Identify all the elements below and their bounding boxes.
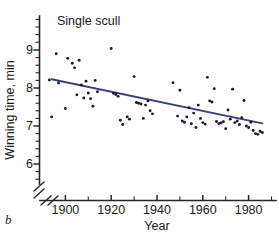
- data-point: [133, 75, 136, 78]
- data-point: [236, 120, 239, 123]
- data-point: [82, 96, 85, 99]
- data-point: [185, 115, 188, 118]
- data-point: [50, 115, 53, 118]
- data-point: [48, 79, 51, 82]
- y-axis-title: Winning time, min: [3, 60, 17, 159]
- y-axis-tick-labels: 9 8 7 6: [26, 43, 33, 171]
- data-point: [85, 80, 88, 83]
- data-point: [204, 123, 207, 126]
- data-point: [249, 121, 252, 124]
- data-point: [183, 121, 186, 124]
- data-point: [229, 118, 232, 121]
- x-tick-label-1980: 1980: [235, 203, 263, 217]
- data-point: [128, 118, 131, 121]
- x-tick-label-1920: 1920: [97, 203, 125, 217]
- data-point: [188, 106, 191, 109]
- scatter-points-group: [48, 47, 264, 136]
- data-point: [176, 115, 179, 118]
- data-point: [194, 126, 197, 129]
- data-point: [66, 57, 69, 60]
- axis-break-marks: [34, 182, 58, 205]
- data-point: [151, 112, 154, 115]
- data-point: [75, 93, 78, 96]
- data-point: [57, 82, 60, 85]
- data-point: [121, 123, 124, 126]
- x-axis-title: Year: [144, 219, 169, 233]
- data-point: [64, 107, 67, 110]
- data-point: [146, 99, 149, 102]
- data-point: [240, 116, 243, 119]
- data-point: [206, 76, 209, 79]
- data-point: [231, 88, 234, 91]
- data-point: [142, 117, 145, 120]
- data-point: [215, 120, 218, 123]
- data-point: [91, 105, 94, 108]
- y-tick-label-8: 8: [26, 81, 33, 95]
- data-point: [172, 81, 175, 84]
- data-point: [94, 79, 97, 82]
- data-point: [89, 97, 92, 100]
- data-point: [261, 131, 264, 134]
- data-point: [55, 52, 58, 55]
- data-point: [126, 115, 129, 118]
- regression-fit-line: [52, 79, 263, 123]
- data-point: [73, 66, 76, 69]
- data-point: [149, 109, 152, 112]
- scatter-plot-svg: Winning time, min 9 8 7 6: [0, 0, 279, 235]
- data-point: [87, 91, 90, 94]
- data-point: [117, 95, 120, 98]
- data-point: [211, 101, 214, 104]
- data-point: [238, 123, 241, 126]
- x-tick-label-1900: 1900: [51, 203, 79, 217]
- y-tick-label-6: 6: [26, 157, 33, 171]
- data-point: [252, 129, 255, 132]
- x-axis-tick-labels: 1900 1920 1940 1960 1980: [51, 203, 262, 217]
- data-point: [227, 109, 230, 112]
- figure-panel-b: Winning time, min 9 8 7 6: [0, 0, 279, 235]
- data-point: [71, 62, 74, 65]
- data-point: [119, 119, 122, 122]
- panel-label: b: [5, 212, 12, 227]
- x-axis-major-ticks: [65, 195, 248, 201]
- data-point: [192, 112, 195, 115]
- y-axis-major-ticks: [34, 50, 40, 164]
- data-point: [114, 93, 117, 96]
- data-point: [213, 87, 216, 90]
- y-tick-label-7: 7: [26, 119, 33, 133]
- data-point: [178, 89, 181, 92]
- data-point: [140, 103, 143, 106]
- data-point: [78, 59, 81, 62]
- data-point: [96, 90, 99, 93]
- data-point: [190, 122, 193, 125]
- y-tick-label-9: 9: [26, 43, 33, 57]
- data-point: [224, 127, 227, 130]
- x-tick-label-1940: 1940: [143, 203, 171, 217]
- data-point: [222, 120, 225, 123]
- data-point: [247, 126, 250, 129]
- data-point: [110, 47, 113, 50]
- data-point: [256, 133, 259, 136]
- data-point: [197, 104, 200, 107]
- data-point: [199, 117, 202, 120]
- data-point: [243, 99, 246, 102]
- plot-title: Single scull: [57, 14, 120, 28]
- data-point: [144, 104, 147, 107]
- data-point: [80, 84, 83, 87]
- x-tick-label-1960: 1960: [189, 203, 217, 217]
